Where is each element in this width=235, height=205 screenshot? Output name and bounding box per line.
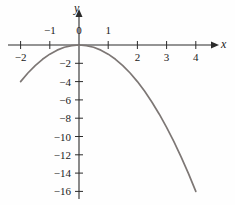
x-tick-label: 1 xyxy=(97,25,119,36)
x-axis-label: x xyxy=(221,38,226,50)
y-tick-label: −16 xyxy=(41,186,71,197)
graph-figure: y x −2−101234 −2−4−6−8−10−12−14−16 xyxy=(0,0,235,205)
x-axis-arrowhead xyxy=(211,42,219,49)
x-tick-label: −2 xyxy=(10,52,32,63)
y-tick-label: −2 xyxy=(41,58,71,69)
x-tick-label: −1 xyxy=(39,25,61,36)
y-tick-label: −10 xyxy=(41,132,71,143)
x-tick-label: 3 xyxy=(156,52,178,63)
y-tick-label: −6 xyxy=(41,95,71,106)
x-tick-label: 4 xyxy=(185,52,207,63)
y-tick-label: −4 xyxy=(41,77,71,88)
y-axis-label: y xyxy=(74,2,79,14)
y-tick-label: −12 xyxy=(41,150,71,161)
y-tick-label: −8 xyxy=(41,113,71,124)
y-axis xyxy=(76,9,83,199)
x-axis xyxy=(8,42,219,49)
x-tick-label: 0 xyxy=(68,25,90,36)
x-tick-label: 2 xyxy=(126,52,148,63)
y-tick-label: −14 xyxy=(41,168,71,179)
